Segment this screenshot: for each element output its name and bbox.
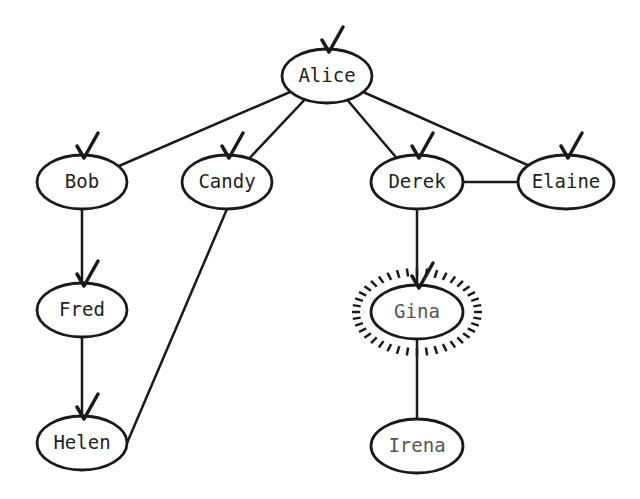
nodes: AliceBobCandyDerekElaineFredGinaHelenIre… xyxy=(37,27,614,473)
node-label: Derek xyxy=(388,170,446,192)
node-label: Irena xyxy=(388,434,445,456)
node-bob[interactable]: Bob xyxy=(37,133,127,209)
graph-diagram: AliceBobCandyDerekElaineFredGinaHelenIre… xyxy=(0,0,640,499)
edges xyxy=(82,76,566,446)
node-candy[interactable]: Candy xyxy=(182,133,272,209)
node-label: Elaine xyxy=(532,170,601,192)
checkmark-icon xyxy=(412,133,433,158)
checkmark-icon xyxy=(561,133,582,158)
node-label: Bob xyxy=(65,170,99,192)
node-label: Gina xyxy=(394,300,440,322)
checkmark-icon xyxy=(77,394,98,419)
checkmark-icon xyxy=(77,261,98,286)
node-irena[interactable]: Irena xyxy=(371,419,463,473)
node-elaine[interactable]: Elaine xyxy=(518,133,614,209)
graph-svg: AliceBobCandyDerekElaineFredGinaHelenIre… xyxy=(0,0,640,499)
edge-candy-helen xyxy=(127,209,227,443)
node-label: Alice xyxy=(298,64,355,86)
node-label: Helen xyxy=(53,431,110,453)
checkmark-icon xyxy=(222,133,243,158)
node-alice[interactable]: Alice xyxy=(282,27,372,103)
node-label: Fred xyxy=(59,298,105,320)
checkmark-icon xyxy=(412,263,433,288)
checkmark-icon xyxy=(77,133,98,158)
checkmark-icon xyxy=(322,27,343,52)
node-label: Candy xyxy=(198,170,255,192)
